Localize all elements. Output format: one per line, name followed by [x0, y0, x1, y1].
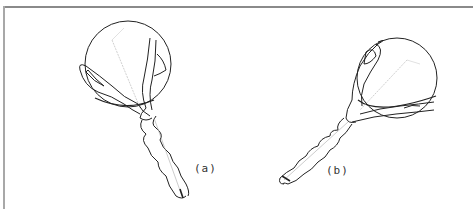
panel-b-drawing [280, 38, 438, 184]
panel-label-a: (a) [194, 162, 217, 175]
panel-label-b: (b) [326, 164, 349, 177]
figure-drawings [0, 0, 473, 209]
sphere-a [85, 21, 171, 107]
panel-a-drawing [80, 21, 189, 198]
